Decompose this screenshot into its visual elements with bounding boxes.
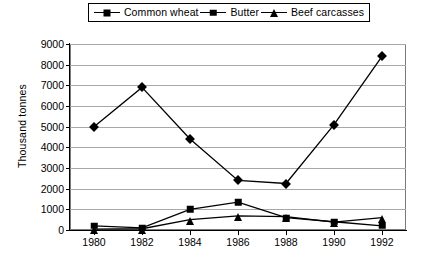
y-tick-label: 7000 — [20, 80, 64, 90]
data-point-diamond — [283, 180, 290, 187]
y-tick-label: 1000 — [20, 204, 64, 214]
legend-label-butter: Butter — [230, 7, 259, 18]
x-tick-label: 1990 — [314, 237, 354, 248]
data-point-square — [235, 199, 242, 206]
diamond-marker-icon — [94, 8, 120, 18]
legend-label-beef-carcasses: Beef carcasses — [291, 7, 364, 18]
data-point-square — [187, 206, 194, 213]
legend-item-common-wheat[interactable]: Common wheat — [94, 7, 199, 18]
triangle-marker-icon — [261, 8, 287, 18]
x-tick-mark — [382, 230, 383, 235]
data-point-diamond — [187, 136, 194, 143]
legend-item-beef-carcasses[interactable]: Beef carcasses — [261, 7, 364, 18]
data-point-triangle — [282, 213, 290, 221]
x-tick-mark — [238, 230, 239, 235]
data-point-square — [379, 223, 386, 230]
x-tick-label: 1982 — [122, 237, 162, 248]
x-tick-mark — [334, 230, 335, 235]
data-point-triangle — [378, 214, 386, 222]
plot-area: 0100020003000400050006000700080009000 19… — [70, 44, 406, 230]
legend-label-common-wheat: Common wheat — [124, 7, 199, 18]
x-tick-mark — [286, 230, 287, 235]
x-tick-mark — [190, 230, 191, 235]
legend-item-butter[interactable]: Butter — [200, 7, 259, 18]
y-tick-label: 9000 — [20, 39, 64, 49]
x-tick-mark — [142, 230, 143, 235]
data-point-triangle — [234, 212, 242, 220]
x-tick-label: 1984 — [170, 237, 210, 248]
y-tick-label: 4000 — [20, 142, 64, 152]
y-tick-label: 8000 — [20, 60, 64, 70]
line-chart: Common wheat Butter Beef carcasses Thous… — [0, 0, 424, 274]
square-marker-icon — [200, 8, 226, 18]
data-point-diamond — [379, 53, 386, 60]
y-tick-label: 3000 — [20, 163, 64, 173]
y-tick-label: 0 — [20, 225, 64, 235]
data-point-diamond — [91, 123, 98, 130]
chart-legend: Common wheat Butter Beef carcasses — [88, 3, 370, 22]
series-line-common-wheat — [94, 56, 382, 183]
x-tick-mark — [94, 230, 95, 235]
y-tick-label: 2000 — [20, 184, 64, 194]
x-axis-ticks: 1980198219841986198819901992 — [70, 230, 406, 260]
y-tick-label: 5000 — [20, 122, 64, 132]
x-tick-label: 1986 — [218, 237, 258, 248]
x-tick-label: 1992 — [362, 237, 402, 248]
data-point-diamond — [331, 121, 338, 128]
y-tick-label: 6000 — [20, 101, 64, 111]
data-point-triangle — [186, 216, 194, 224]
data-point-diamond — [139, 84, 146, 91]
x-tick-label: 1980 — [74, 237, 114, 248]
data-point-diamond — [235, 177, 242, 184]
x-tick-label: 1988 — [266, 237, 306, 248]
data-point-triangle — [330, 218, 338, 226]
